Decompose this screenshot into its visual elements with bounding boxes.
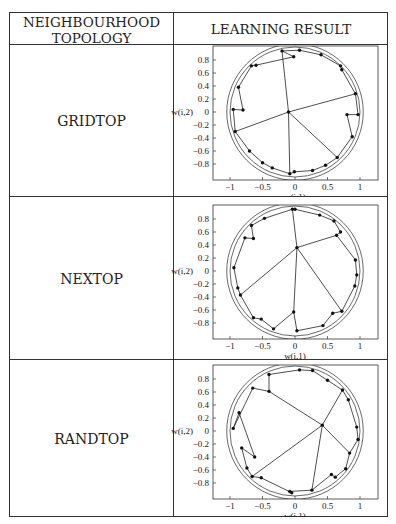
neuron-node — [310, 488, 313, 491]
neuron-node — [280, 49, 283, 52]
header-line-1: NEIGHBOURHOOD — [10, 14, 173, 30]
row-label-randtop: RANDTOP — [10, 431, 173, 447]
y-tick-label: 0 — [205, 426, 210, 436]
y-tick-label: 0.8 — [198, 374, 210, 384]
unit-circle — [230, 366, 360, 496]
y-tick-label: 0.6 — [198, 227, 210, 237]
x-tick-label: −1 — [225, 341, 235, 351]
neuron-node — [252, 316, 255, 319]
neuron-node — [345, 113, 348, 116]
neuron-node — [250, 475, 253, 478]
neuron-node — [250, 224, 253, 227]
neuron-node — [243, 236, 246, 239]
neuron-node — [288, 172, 291, 175]
neuron-node — [232, 427, 235, 430]
neuron-node — [271, 166, 274, 169]
neuron-node — [351, 135, 354, 138]
neuron-node — [245, 466, 248, 469]
neuron-node — [330, 473, 333, 476]
neuron-node — [341, 388, 344, 391]
y-tick-label: −0.8 — [193, 159, 210, 169]
plot-gridtop: −1−0.500.510.80.60.40.20−0.2−0.4−0.6−0.8… — [170, 44, 388, 196]
outer-circle — [227, 44, 364, 180]
neuron-node — [252, 237, 255, 240]
x-tick-label: 0 — [293, 501, 298, 511]
neuron-node — [354, 92, 357, 95]
plot-nextop: −1−0.500.510.80.60.40.20−0.2−0.4−0.6−0.8… — [170, 201, 388, 359]
x-tick-label: 1 — [358, 341, 363, 351]
neuron-node — [326, 379, 329, 382]
y-tick-label: −0.2 — [193, 279, 209, 289]
neuron-node — [240, 446, 243, 449]
neuron-node — [311, 369, 314, 372]
neuron-node — [344, 467, 347, 470]
x-axis-label: w(i,1) — [284, 192, 306, 196]
x-tick-label: −1 — [225, 501, 235, 511]
x-axis-label: w(i,1) — [284, 511, 306, 517]
neuron-node — [354, 258, 357, 261]
neuron-node — [234, 130, 237, 133]
neuron-node — [298, 368, 301, 371]
y-tick-label: −0.2 — [193, 120, 209, 130]
y-tick-label: −0.8 — [193, 478, 210, 488]
y-tick-label: −0.6 — [193, 305, 210, 315]
x-tick-label: 1 — [358, 182, 363, 192]
neuron-node — [319, 53, 322, 56]
header-learning-result: LEARNING RESULT — [174, 21, 388, 37]
y-tick-label: −0.6 — [193, 146, 210, 156]
row-label-nextop: NEXTOP — [10, 271, 173, 287]
x-axis-label: w(i,1) — [284, 351, 306, 359]
neuron-node — [260, 476, 263, 479]
y-tick-label: 0.2 — [198, 253, 209, 263]
y-tick-label: 0.6 — [198, 387, 210, 397]
y-tick-label: 0.8 — [198, 55, 210, 65]
neuron-node — [237, 86, 240, 89]
neuron-node — [290, 491, 293, 494]
y-tick-label: −0.8 — [193, 318, 210, 328]
neuron-node — [236, 286, 239, 289]
y-axis-label: w(i,2) — [171, 426, 193, 436]
neuron-node — [347, 398, 350, 401]
neuron-node — [261, 161, 264, 164]
neuron-node — [334, 475, 337, 478]
neuron-node — [335, 234, 338, 237]
plot-randtop: −1−0.500.510.80.60.40.20−0.2−0.4−0.6−0.8… — [170, 362, 388, 517]
y-tick-label: −0.4 — [193, 452, 210, 462]
x-tick-label: −0.5 — [254, 182, 271, 192]
neuron-node — [295, 329, 298, 332]
plot-frame — [213, 365, 378, 499]
y-tick-label: 0.6 — [198, 68, 210, 78]
neuron-node — [295, 246, 298, 249]
x-tick-label: 0.5 — [322, 182, 334, 192]
neuron-node — [263, 217, 266, 220]
neuron-node — [336, 156, 339, 159]
y-tick-label: 0.2 — [198, 413, 209, 423]
neuron-node — [340, 68, 343, 71]
neuron-node — [293, 208, 296, 211]
neuron-node — [311, 169, 314, 172]
y-tick-label: 0.4 — [198, 240, 210, 250]
neuron-node — [340, 310, 343, 313]
neuron-node — [355, 273, 358, 276]
neuron-node — [353, 284, 356, 287]
x-tick-label: −0.5 — [254, 341, 271, 351]
y-tick-label: 0.4 — [198, 400, 210, 410]
neuron-node — [348, 451, 351, 454]
neuron-node — [232, 108, 235, 111]
y-tick-label: 0.8 — [198, 214, 210, 224]
neuron-chain — [233, 50, 358, 174]
neuron-chain — [234, 209, 357, 331]
x-tick-label: 0.5 — [322, 501, 334, 511]
y-axis-label: w(i,2) — [171, 107, 193, 117]
neuron-node — [260, 317, 263, 320]
neuron-node — [250, 64, 253, 67]
y-tick-label: 0 — [205, 107, 210, 117]
neuron-node — [251, 386, 254, 389]
neuron-node — [331, 312, 334, 315]
neuron-node — [254, 64, 257, 67]
header-neighbourhood-topology: NEIGHBOURHOOD TOPOLOGY — [10, 14, 173, 46]
y-tick-label: −0.2 — [193, 439, 209, 449]
x-tick-label: 0.5 — [322, 341, 334, 351]
y-tick-label: 0.2 — [198, 94, 209, 104]
neuron-node — [355, 425, 358, 428]
